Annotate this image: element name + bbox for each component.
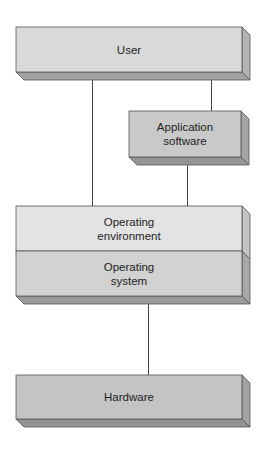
operating-system-bottom-face [16,296,250,304]
user-label: User [16,27,242,72]
application-bottom-face [129,157,249,165]
operating-system-label-line-2: system [111,274,147,288]
operating-system-label-line-1: Operating [104,260,155,274]
operating-system-side-face [242,251,250,304]
operating-environment-label: Operating environment [16,206,242,251]
hardware-bottom-face [16,419,250,427]
hardware-label: Hardware [16,375,242,419]
application-software-label-line-2: software [163,134,206,148]
application-software-label: Application software [129,111,241,157]
operating-environment-side-face [242,206,250,259]
operating-system-label: Operating system [16,251,242,296]
hardware-side-face [242,375,250,427]
application-software-label-line-1: Application [157,120,213,134]
operating-environment-label-line-2: environment [97,229,160,243]
operating-environment-label-line-1: Operating [104,215,155,229]
hardware-label-line-1: Hardware [104,390,154,404]
user-side-face [242,27,250,80]
application-side-face [241,111,249,165]
user-label-line-1: User [117,43,141,57]
user-bottom-face [16,72,250,80]
